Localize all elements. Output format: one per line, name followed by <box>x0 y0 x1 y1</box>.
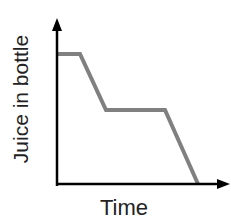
data-line <box>57 54 198 184</box>
chart-canvas <box>0 0 231 221</box>
y-axis-arrow-icon <box>52 18 62 31</box>
x-axis-arrow-icon <box>217 179 230 189</box>
